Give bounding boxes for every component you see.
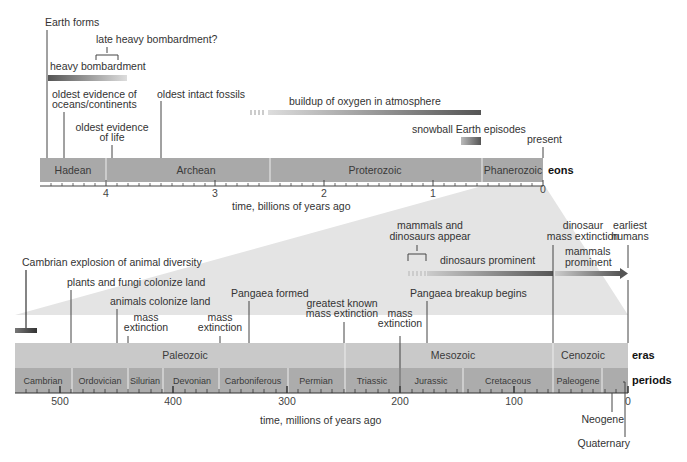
bottom-tick-0: 0	[625, 395, 631, 407]
eon-bar: Hadean Archean Proterozoic Phanerozoic e…	[40, 158, 574, 182]
bottom-axis-label: time, millions of years ago	[260, 414, 382, 426]
event-earliest-humans-2: humans	[611, 230, 648, 242]
period-bar: Cambrian Ordovician Silurian Devonian Ca…	[15, 368, 672, 393]
period-devonian: Devonian	[173, 376, 211, 386]
period-cambrian: Cambrian	[23, 376, 62, 386]
event-oxygen-buildup: buildup of oxygen in atmosphere	[289, 95, 441, 107]
event-snowball-earth: snowball Earth episodes	[412, 123, 526, 135]
event-mass-extinction-3b: extinction	[378, 317, 423, 329]
event-mass-extinction-2b: extinction	[198, 321, 243, 333]
event-cambrian-explosion: Cambrian explosion of animal diversity	[22, 256, 202, 268]
era-paleozoic: Paleozoic	[162, 349, 208, 361]
present-label: present	[527, 133, 562, 145]
era-cenozoic: Cenozoic	[561, 349, 605, 361]
event-plants-fungi-land: plants and fungi colonize land	[67, 276, 206, 288]
period-permian: Permian	[299, 376, 333, 386]
top-tick-4: 4	[103, 187, 109, 199]
dinosaurs-prominent-bar	[408, 271, 553, 276]
event-mass-extinction-1b: extinction	[124, 321, 169, 333]
top-tick-1: 1	[430, 187, 436, 199]
event-dinosaurs-prominent: dinosaurs prominent	[440, 254, 535, 266]
top-tick-0: 0	[540, 183, 546, 195]
period-neogene: Neogene	[581, 413, 624, 425]
cambrian-explosion-bar	[15, 328, 37, 333]
period-triassic: Triassic	[357, 376, 388, 386]
event-oldest-oceans-2: oceans/continents	[52, 98, 137, 110]
eons-row-label: eons	[548, 164, 574, 176]
bottom-tick-300: 300	[278, 395, 296, 407]
oxygen-bar	[250, 110, 481, 115]
event-mammals-prominent-2: prominent	[565, 256, 612, 268]
era-mesozoic: Mesozoic	[431, 349, 475, 361]
top-tick-3: 3	[212, 187, 218, 199]
period-quaternary: Quaternary	[577, 437, 630, 449]
periods-row-label: periods	[632, 374, 672, 386]
eon-archean: Archean	[176, 164, 215, 176]
snowball-bar	[461, 137, 481, 145]
eon-phanerozoic: Phanerozoic	[484, 164, 542, 176]
eon-proterozoic: Proterozoic	[348, 164, 401, 176]
event-oldest-life-2: of life	[99, 131, 124, 143]
event-pangaea-breakup: Pangaea breakup begins	[410, 287, 527, 299]
period-paleogene: Paleogene	[556, 376, 599, 386]
period-cretaceous: Cretaceous	[485, 376, 532, 386]
event-oldest-fossils: oldest intact fossils	[157, 88, 245, 100]
event-mammals-dinos-2: dinosaurs appear	[389, 230, 471, 242]
bottom-tick-100: 100	[505, 395, 523, 407]
event-dinosaur-extinction-2: mass extinction	[547, 230, 620, 242]
bottom-tick-500: 500	[51, 395, 69, 407]
eras-row-label: eras	[632, 349, 655, 361]
event-animals-land: animals colonize land	[110, 295, 211, 307]
period-jurassic: Jurassic	[414, 376, 448, 386]
top-tick-2: 2	[321, 187, 327, 199]
eon-hadean: Hadean	[55, 164, 92, 176]
period-carboniferous: Carboniferous	[225, 376, 282, 386]
period-ordovician: Ordovician	[78, 376, 121, 386]
heavy-bombardment-bar	[48, 75, 127, 81]
bottom-tick-200: 200	[391, 395, 409, 407]
event-pangaea-formed: Pangaea formed	[231, 287, 309, 299]
top-axis-label: time, billions of years ago	[232, 200, 351, 212]
event-greatest-extinction-2: mass extinction	[306, 307, 379, 319]
era-bar: Paleozoic Mesozoic Cenozoic eras	[15, 343, 655, 368]
bottom-tick-400: 400	[164, 395, 182, 407]
event-earth-forms: Earth forms	[45, 16, 99, 28]
event-heavy-bombardment: heavy bombardment	[50, 60, 146, 72]
period-silurian: Silurian	[130, 376, 160, 386]
geologic-timescale-diagram: Hadean Archean Proterozoic Phanerozoic e…	[0, 0, 687, 462]
event-late-heavy-bombardment: late heavy bombardment?	[96, 33, 218, 45]
